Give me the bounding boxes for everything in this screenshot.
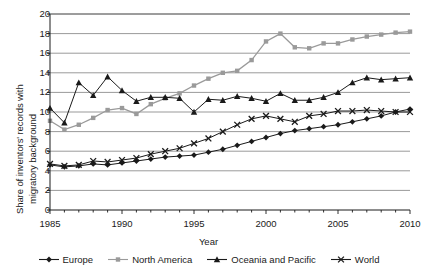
data-point-diamond	[177, 153, 183, 159]
data-point-diamond	[206, 149, 212, 155]
data-point-diamond	[234, 142, 240, 148]
data-point-diamond	[46, 257, 52, 263]
legend-item-north-america[interactable]: North America	[107, 254, 192, 265]
legend-label: Oceania and Pacific	[231, 254, 316, 265]
data-point-diamond	[335, 122, 341, 128]
legend-marker-diamond-icon	[38, 254, 60, 265]
x-tick-label: 2000	[255, 219, 276, 229]
series-oceania-and-pacific	[47, 74, 413, 126]
data-point-diamond	[306, 126, 312, 132]
x-tick-label: 1990	[111, 219, 132, 229]
series-line	[50, 109, 410, 167]
data-point-triangle	[234, 93, 240, 99]
data-point-square	[365, 34, 369, 38]
data-point-square	[206, 76, 210, 80]
legend-label: World	[355, 254, 380, 265]
data-point-square	[105, 108, 109, 112]
data-point-square	[336, 41, 340, 45]
data-point-square	[221, 71, 225, 75]
data-point-triangle	[277, 90, 283, 96]
data-point-square	[91, 116, 95, 120]
data-point-x	[206, 136, 212, 142]
data-point-diamond	[162, 154, 168, 160]
data-point-square	[307, 46, 311, 50]
series-line	[50, 110, 410, 166]
data-point-square	[134, 112, 138, 116]
data-point-diamond	[350, 119, 356, 125]
data-point-diamond	[364, 116, 370, 122]
data-point-square	[177, 91, 181, 95]
data-point-diamond	[292, 128, 298, 134]
series-line	[50, 77, 410, 123]
data-series-layer	[47, 29, 413, 169]
gridlines	[50, 14, 410, 190]
data-point-square	[350, 37, 354, 41]
data-point-square	[293, 45, 297, 49]
data-point-triangle	[76, 79, 82, 85]
data-point-square	[235, 69, 239, 73]
series-europe	[47, 106, 413, 170]
x-tick-label: 2005	[327, 219, 348, 229]
data-point-diamond	[191, 152, 197, 158]
legend-label: North America	[132, 254, 192, 265]
x-axis-tick-labels: 198519901995200020052010	[0, 216, 417, 234]
data-point-square	[321, 41, 325, 45]
legend-item-oceania-and-pacific[interactable]: Oceania and Pacific	[206, 254, 316, 265]
legend-marker-x-icon	[330, 254, 352, 265]
x-tick-label: 2010	[399, 219, 420, 229]
legend-marker-square-icon	[107, 254, 129, 265]
legend-item-europe[interactable]: Europe	[38, 254, 94, 265]
legend-label: Europe	[63, 254, 94, 265]
data-point-square	[116, 257, 120, 261]
data-point-triangle	[364, 75, 370, 81]
x-tick-label: 1985	[39, 219, 60, 229]
data-point-square	[278, 31, 282, 35]
data-point-square	[62, 127, 66, 131]
data-point-square	[249, 58, 253, 62]
data-point-diamond	[263, 135, 269, 141]
data-point-square	[149, 102, 153, 106]
data-point-x	[191, 140, 197, 146]
data-point-x	[234, 122, 240, 128]
data-point-square	[264, 39, 268, 43]
data-point-square	[379, 32, 383, 36]
data-point-square	[192, 83, 196, 87]
data-point-square	[77, 123, 81, 127]
x-tick-label: 1995	[183, 219, 204, 229]
x-axis-tick-marks	[50, 210, 410, 214]
chart-legend: EuropeNorth AmericaOceania and PacificWo…	[0, 254, 417, 265]
data-point-square	[120, 106, 124, 110]
data-point-diamond	[249, 139, 255, 145]
data-point-square	[393, 30, 397, 34]
legend-marker-triangle-icon	[206, 254, 228, 265]
plot-area	[0, 0, 417, 232]
data-point-triangle	[104, 74, 110, 80]
data-point-diamond	[62, 164, 68, 170]
data-point-diamond	[321, 124, 327, 130]
data-point-square	[408, 29, 412, 33]
legend-item-world[interactable]: World	[330, 254, 380, 265]
x-axis-label: Year	[0, 236, 417, 247]
series-world	[47, 107, 413, 169]
